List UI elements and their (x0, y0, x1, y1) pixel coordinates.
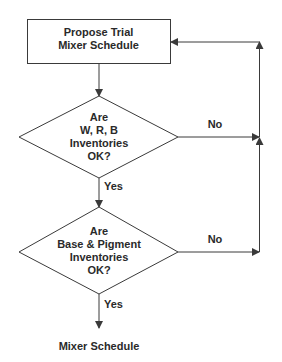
flowchart-canvas: Propose Trial Mixer Schedule Are W, R, B… (0, 0, 282, 362)
decision2-label: Are Base & Pigment Inventories OK? (40, 225, 158, 277)
decision1-line-4: OK? (40, 150, 158, 163)
decision1-line-1: Are (40, 111, 158, 124)
decision2-line-4: OK? (40, 264, 158, 277)
decision2-line-2: Base & Pigment (40, 238, 158, 251)
decision1-line-3: Inventories (40, 137, 158, 150)
decision1-line-2: W, R, B (40, 124, 158, 137)
output-label: Mixer Schedule (40, 340, 158, 353)
decision2-no-label: No (200, 233, 230, 246)
flowchart-lines (0, 0, 282, 362)
decision1-label: Are W, R, B Inventories OK? (40, 111, 158, 163)
decision2-line-1: Are (40, 225, 158, 238)
start-box-label: Propose Trial Mixer Schedule (27, 26, 170, 52)
start-box-line-2: Mixer Schedule (27, 39, 170, 52)
start-box-line-1: Propose Trial (27, 26, 170, 39)
decision2-yes-label: Yes (104, 298, 134, 311)
decision1-yes-label: Yes (104, 180, 134, 193)
decision2-line-3: Inventories (40, 251, 158, 264)
decision1-no-label: No (200, 118, 230, 131)
